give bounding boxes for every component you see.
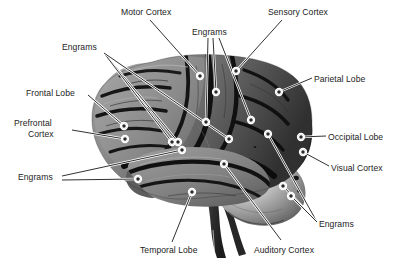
leader-sensory-cortex (236, 20, 282, 71)
label-temporal-lobe: Temporal Lobe (140, 245, 198, 255)
leader-prefrontal-marker (123, 137, 128, 142)
label-engrams-left: Engrams (18, 172, 53, 182)
label-sensory-cortex: Sensory Cortex (268, 7, 328, 17)
label-prefrontal-cortex-line2: Cortex (28, 129, 54, 139)
label-engrams-upper-left: Engrams (62, 42, 97, 52)
label-engrams-right: Engrams (319, 219, 354, 229)
leader-occipital-lobe-marker (299, 135, 304, 140)
leader-motor-cortex-marker (198, 74, 203, 79)
leader-engrams-left-a (62, 150, 182, 176)
leader-engrams-top-c-marker (249, 118, 254, 123)
leader-engrams-upleft-a-marker (176, 140, 181, 145)
label-frontal-lobe: Frontal Lobe (26, 88, 75, 98)
leader-engrams-right-b-marker (281, 184, 286, 189)
leader-engrams-upleft-b-marker (170, 140, 175, 145)
label-engrams-top: Engrams (192, 27, 227, 37)
leader-visual-cortex-marker (301, 150, 306, 155)
leader-temporal-lobe-marker (190, 190, 195, 195)
leader-engrams-right-a (268, 134, 317, 222)
leader-frontal-lobe (88, 95, 124, 126)
leader-engrams-upleft-c-marker (227, 137, 232, 142)
label-motor-cortex: Motor Cortex (121, 7, 171, 17)
leader-engrams-left-b-marker (136, 177, 141, 182)
leader-visual-cortex (303, 152, 329, 166)
leader-engrams-left-a-marker (180, 148, 185, 153)
label-auditory-cortex: Auditory Cortex (254, 245, 314, 255)
leader-prefrontal (72, 130, 125, 139)
leader-temporal-lobe (172, 192, 192, 242)
leader-frontal-lobe-marker (122, 124, 127, 129)
leader-parietal-lobe (279, 78, 312, 92)
leader-auditory-cortex-marker (222, 162, 227, 167)
leader-engrams-right-c-marker (289, 194, 294, 199)
leader-engrams-upleft-b (104, 53, 172, 142)
leader-engrams-top-b-marker (214, 90, 219, 95)
brain-diagram-figure: Motor Cortex Engrams Sensory Cortex Engr… (0, 0, 414, 268)
leader-engrams-top-a-marker (204, 120, 209, 125)
leader-auditory-cortex (224, 164, 281, 240)
leader-engrams-right-a-marker (266, 132, 271, 137)
leader-parietal-lobe-marker (277, 90, 282, 95)
label-visual-cortex: Visual Cortex (331, 163, 383, 173)
leader-sensory-cortex-marker (234, 69, 239, 74)
label-occipital-lobe: Occipital Lobe (328, 132, 383, 142)
label-parietal-lobe: Parietal Lobe (314, 74, 365, 84)
leader-engrams-top-c (219, 38, 251, 120)
label-prefrontal-cortex-line1: Prefrontal (14, 118, 52, 128)
